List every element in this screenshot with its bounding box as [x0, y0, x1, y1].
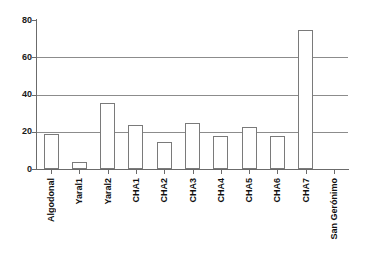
bars-container [37, 20, 348, 169]
x-tick-mark [277, 170, 278, 174]
bar-chart-figure: 020406080 AlgodonalYaral1Yaral2CHA1CHA2C… [0, 0, 367, 256]
y-tick-mark [32, 169, 37, 170]
x-tick-label: Algodonal [46, 178, 56, 222]
bar [185, 123, 200, 169]
x-tick-mark [136, 170, 137, 174]
y-tick-label: 60 [5, 53, 32, 62]
y-tick-label: 40 [5, 90, 32, 99]
x-tick-mark [249, 170, 250, 174]
bar [270, 136, 285, 169]
x-tick-label: CHA1 [131, 178, 141, 203]
x-tick-label: CHA3 [188, 178, 198, 203]
bar [242, 127, 257, 169]
bar [213, 136, 228, 169]
bar [298, 30, 313, 169]
bar [44, 134, 59, 169]
y-tick-label: 80 [5, 16, 32, 25]
x-tick-mark [108, 170, 109, 174]
x-tick-mark [79, 170, 80, 174]
x-tick-label: CHA5 [244, 178, 254, 203]
bar [72, 162, 87, 169]
y-tick-label: 0 [5, 165, 32, 174]
x-tick-mark [221, 170, 222, 174]
x-tick-mark [193, 170, 194, 174]
bar [100, 103, 115, 169]
x-tick-label: CHA4 [216, 178, 226, 203]
x-tick-mark [51, 170, 52, 174]
x-tick-label: San Gerónimo [329, 178, 339, 240]
bar [157, 142, 172, 169]
x-tick-mark [306, 170, 307, 174]
y-tick-label: 20 [5, 127, 32, 136]
x-tick-label: CHA6 [272, 178, 282, 203]
x-tick-mark [334, 170, 335, 174]
x-tick-label: Yaral2 [103, 178, 113, 205]
bar [128, 125, 143, 169]
x-tick-label: CHA7 [301, 178, 311, 203]
x-tick-mark [164, 170, 165, 174]
x-tick-label: Yaral1 [74, 178, 84, 205]
x-tick-label: CHA2 [159, 178, 169, 203]
